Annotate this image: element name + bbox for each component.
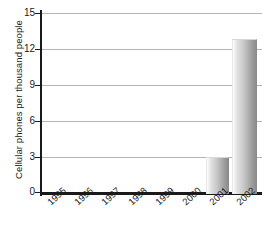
gridline-6 (42, 121, 262, 122)
gridline-9 (42, 85, 262, 86)
gridline-3 (42, 157, 262, 158)
y-tick-mark-3 (35, 157, 42, 158)
y-tick-label-15: 15 (0, 7, 35, 18)
y-tick-label-0: 0 (0, 186, 35, 197)
y-tick-label-12: 12 (0, 43, 35, 54)
bar-2002 (232, 39, 257, 194)
plot-area (42, 13, 262, 193)
bar-chart: Cellular phones per thousand people 15 1… (0, 0, 276, 238)
y-tick-label-3: 3 (0, 151, 35, 162)
y-tick-mark-6 (35, 121, 42, 122)
gridline-12 (42, 49, 262, 50)
y-tick-mark-0 (35, 192, 42, 193)
y-tick-label-6: 6 (0, 115, 35, 126)
y-tick-label-9: 9 (0, 79, 35, 90)
gridline-15 (42, 13, 262, 14)
y-tick-mark-15 (35, 13, 42, 14)
y-tick-mark-9 (35, 85, 42, 86)
y-axis-title: Cellular phones per thousand people (13, 5, 24, 195)
y-tick-mark-12 (35, 49, 42, 50)
